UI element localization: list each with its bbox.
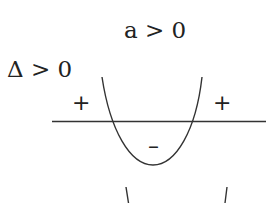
lower-branch-left — [126, 187, 129, 203]
lower-branch-right — [225, 187, 227, 203]
sign-positive-left: + — [72, 92, 90, 114]
sign-negative-middle: – — [148, 135, 159, 157]
sign-positive-right: + — [213, 92, 231, 114]
parabola-diagram — [0, 0, 275, 203]
